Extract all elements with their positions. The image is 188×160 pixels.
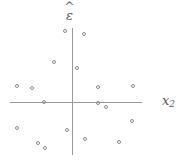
data-point [30,86,34,90]
data-point [65,128,69,132]
data-point [75,66,79,70]
data-point [43,146,47,150]
data-point [130,119,134,123]
data-point [83,137,87,141]
data-point [117,140,121,144]
x-axis-label-subscript: 2 [169,99,175,109]
y-axis-label: ε ^ [66,9,73,22]
x-axis-label: x2 [162,94,175,109]
data-point [42,100,46,104]
data-point [96,85,100,89]
data-point [131,84,135,88]
data-point [15,126,19,130]
x-axis-line [10,102,142,103]
y-axis-label-hat: ^ [64,1,74,13]
data-point [82,32,86,36]
data-point [96,101,100,105]
data-point [104,105,108,109]
scatter-plot-figure: ε ^ x2 [0,0,188,160]
data-point [52,60,56,64]
data-point [15,84,19,88]
y-axis-line [72,28,73,155]
data-point [63,29,67,33]
data-point [36,141,40,145]
y-axis-label-symbol: ε ^ [66,9,73,22]
